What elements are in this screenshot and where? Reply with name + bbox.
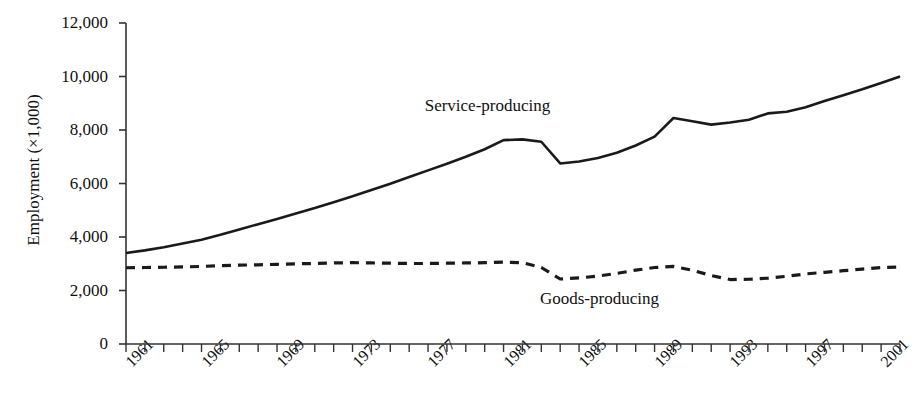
x-axis-ticks bbox=[126, 344, 900, 352]
y-axis-ticks bbox=[119, 23, 126, 344]
series-label-service: Service-producing bbox=[425, 96, 551, 116]
series-label-goods: Goods-producing bbox=[540, 289, 659, 309]
axis-lines bbox=[126, 23, 900, 344]
chart-figure: Employment (×1,000) 02,0004,0006,0008,00… bbox=[0, 0, 923, 420]
plot-area bbox=[0, 0, 923, 420]
series-line-goods-producing bbox=[126, 262, 900, 279]
